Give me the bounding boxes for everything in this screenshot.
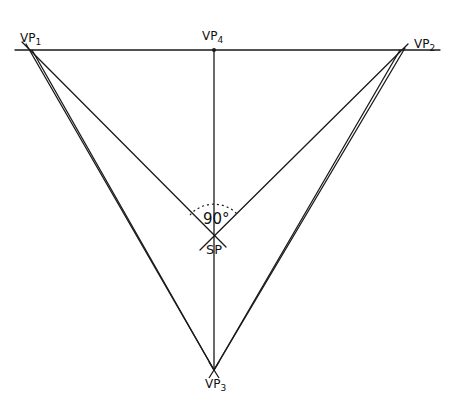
diagram-canvas bbox=[0, 0, 458, 414]
vp1-to-sp bbox=[22, 42, 226, 247]
vp1-label: VP1 bbox=[20, 32, 41, 47]
vp2-label: VP2 bbox=[414, 38, 435, 53]
sp-label: SP bbox=[206, 243, 222, 256]
vp1-to-vp3-b bbox=[32, 50, 214, 370]
vp3-label: VP3 bbox=[205, 378, 226, 393]
vp2-to-vp3-b bbox=[214, 48, 405, 370]
angle-label: 90° bbox=[203, 210, 230, 228]
vp4-label: VP4 bbox=[202, 30, 223, 45]
vp4-point bbox=[212, 48, 216, 52]
